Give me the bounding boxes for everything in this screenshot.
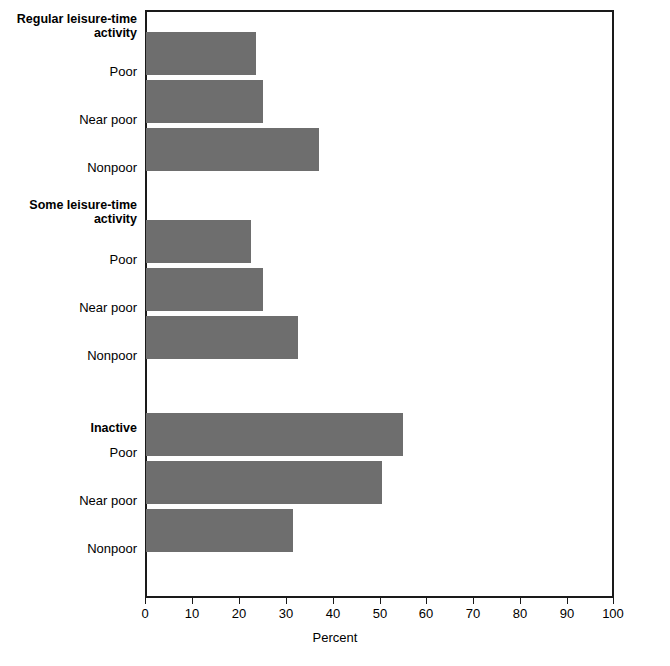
bar-regular-nonpoor [146, 128, 319, 171]
x-tick-label-10: 10 [172, 606, 212, 621]
x-tick-70 [473, 598, 474, 604]
x-tick-label-20: 20 [219, 606, 259, 621]
x-tick-label-100: 100 [593, 606, 633, 621]
category-label-inactive-near-poor: Near poor [79, 494, 137, 508]
bar-chart: Regular leisure-time activity Poor Near … [0, 0, 670, 666]
category-axis-labels: Regular leisure-time activity Poor Near … [0, 10, 141, 598]
x-tick-label-60: 60 [406, 606, 446, 621]
x-tick-0 [145, 598, 146, 604]
category-label-inactive-nonpoor: Nonpoor [87, 542, 137, 556]
x-tick-50 [380, 598, 381, 604]
group-label-inactive: Inactive [90, 421, 137, 435]
category-label-inactive-poor: Poor [110, 446, 137, 460]
bar-some-poor [146, 220, 251, 263]
bar-regular-near-poor [146, 80, 263, 123]
bar-regular-poor [146, 32, 256, 75]
x-axis-title: Percent [0, 630, 670, 645]
category-label-regular-nonpoor: Nonpoor [87, 161, 137, 175]
x-tick-label-40: 40 [313, 606, 353, 621]
group-label-regular-activity: Regular leisure-time activity [17, 12, 137, 40]
bar-inactive-poor [146, 413, 403, 456]
category-label-regular-poor: Poor [110, 65, 137, 79]
x-tick-30 [286, 598, 287, 604]
x-tick-40 [333, 598, 334, 604]
category-label-some-near-poor: Near poor [79, 301, 137, 315]
bar-inactive-near-poor [146, 461, 382, 504]
bar-some-near-poor [146, 268, 263, 311]
category-label-some-nonpoor: Nonpoor [87, 349, 137, 363]
x-tick-100 [613, 598, 614, 604]
x-tick-80 [520, 598, 521, 604]
category-label-some-poor: Poor [110, 253, 137, 267]
x-tick-60 [426, 598, 427, 604]
x-tick-20 [239, 598, 240, 604]
x-tick-label-30: 30 [266, 606, 306, 621]
category-label-regular-near-poor: Near poor [79, 113, 137, 127]
x-tick-label-80: 80 [500, 606, 540, 621]
x-tick-90 [567, 598, 568, 604]
x-tick-label-70: 70 [453, 606, 493, 621]
bar-some-nonpoor [146, 316, 298, 359]
x-tick-label-0: 0 [125, 606, 165, 621]
x-tick-label-90: 90 [547, 606, 587, 621]
bar-inactive-nonpoor [146, 509, 293, 552]
x-tick-label-50: 50 [360, 606, 400, 621]
x-tick-10 [192, 598, 193, 604]
bars-layer [146, 10, 613, 598]
group-label-some-activity: Some leisure-time activity [29, 198, 137, 226]
